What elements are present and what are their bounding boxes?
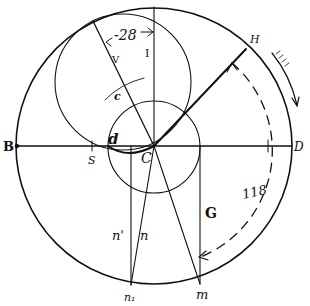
label-dim-28: -28 xyxy=(114,27,137,43)
label-I: I xyxy=(145,47,149,60)
label-B: B xyxy=(3,139,14,154)
dashed-arc-118 xyxy=(198,63,272,258)
line-Cm xyxy=(154,146,200,284)
label-n1: n₁ xyxy=(124,291,136,304)
label-m: m xyxy=(196,287,208,302)
label-dim-118: 118 xyxy=(241,182,268,202)
line-n xyxy=(131,146,154,285)
label-D: D xyxy=(293,140,304,154)
label-G: G xyxy=(205,205,217,221)
point-B xyxy=(15,144,19,148)
label-n: n xyxy=(140,228,148,243)
label-C-center: C xyxy=(141,150,152,166)
geometric-diagram: B D H I V c C d S G n n' n₁ m -28 118 xyxy=(0,0,310,306)
label-H: H xyxy=(249,33,260,46)
label-V: V xyxy=(111,54,120,65)
dim-28-right-arrow xyxy=(141,28,153,36)
rotation-hatching xyxy=(276,51,289,66)
label-S: S xyxy=(88,154,96,167)
label-c-upper: c xyxy=(114,90,121,103)
label-d: d xyxy=(108,130,119,148)
label-n-prime: n' xyxy=(112,228,124,243)
dim-28-left-arrow xyxy=(106,38,112,46)
rotation-arrow-icon xyxy=(272,53,297,105)
arc-c xyxy=(105,78,144,100)
